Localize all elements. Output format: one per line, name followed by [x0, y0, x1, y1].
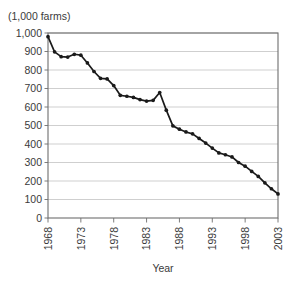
data-point: [243, 164, 247, 168]
y-tick-label: 100: [24, 193, 42, 205]
y-tick-label: 900: [24, 45, 42, 57]
y-tick-label: 1,000: [16, 27, 42, 39]
data-point: [276, 192, 280, 196]
x-tick-label: 2003: [272, 227, 284, 251]
data-point: [178, 127, 182, 131]
y-tick-label: 200: [24, 175, 42, 187]
data-point: [204, 141, 208, 145]
data-point: [158, 91, 162, 95]
data-point: [256, 175, 260, 179]
y-tick-label: 500: [24, 119, 42, 131]
data-point: [250, 170, 254, 174]
data-point: [99, 76, 103, 80]
data-point: [92, 70, 96, 74]
data-point: [237, 161, 241, 165]
data-point: [151, 98, 155, 102]
data-point: [263, 181, 267, 185]
y-tick-label: 800: [24, 64, 42, 76]
data-point: [184, 130, 188, 134]
data-point: [145, 99, 149, 103]
x-axis-title: Year: [152, 262, 174, 274]
x-tick-label: 1988: [173, 227, 185, 251]
data-point: [230, 155, 234, 159]
data-point: [224, 153, 228, 157]
data-point: [79, 53, 83, 57]
y-axis-ticks-group: 01002003004005006007008009001,000: [16, 27, 48, 224]
data-point: [191, 132, 195, 136]
data-point: [59, 55, 63, 59]
data-point: [72, 52, 76, 56]
data-point: [164, 108, 168, 112]
y-tick-label: 600: [24, 101, 42, 113]
data-point: [125, 94, 129, 98]
data-point: [210, 146, 214, 150]
data-point: [217, 151, 221, 155]
data-point: [53, 50, 57, 54]
y-tick-label: 400: [24, 138, 42, 150]
data-series-markers: [46, 35, 280, 196]
x-tick-label: 1968: [42, 227, 54, 251]
data-point: [138, 98, 142, 102]
chart-plot-area: 01002003004005006007008009001,000 196819…: [0, 0, 308, 286]
data-point: [66, 55, 70, 59]
data-point: [132, 96, 136, 100]
data-point: [46, 35, 50, 39]
y-tick-label: 300: [24, 156, 42, 168]
x-tick-label: 1983: [140, 227, 152, 251]
data-point: [112, 84, 116, 88]
y-tick-label: 0: [36, 212, 42, 224]
data-point: [86, 61, 90, 65]
data-series-line: [48, 37, 278, 194]
data-point: [171, 124, 175, 128]
data-point: [118, 93, 122, 97]
x-tick-label: 1993: [206, 227, 218, 251]
y-tick-label: 700: [24, 82, 42, 94]
x-tick-label: 1973: [75, 227, 87, 251]
x-axis-ticks-group: 19681973197819831988199319982003: [42, 218, 284, 250]
data-point: [270, 187, 274, 191]
x-tick-label: 1998: [239, 227, 251, 251]
data-point: [197, 137, 201, 141]
x-tick-label: 1978: [108, 227, 120, 251]
farms-line-chart-figure: (1,000 farms) 01002003004005006007008009…: [0, 0, 308, 286]
data-point: [105, 77, 109, 81]
